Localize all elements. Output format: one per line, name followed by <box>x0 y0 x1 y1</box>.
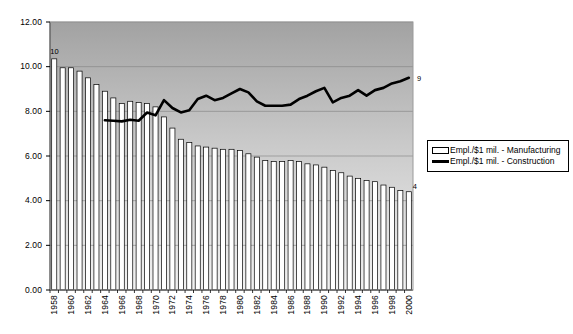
x-tick-label: 1984 <box>269 295 279 315</box>
bar <box>372 182 377 290</box>
x-tick-label: 1996 <box>370 295 380 315</box>
x-tick-label: 1988 <box>302 295 312 315</box>
legend-item-construction: Empl./$1 mil. - Construction <box>432 156 563 167</box>
y-tick-label: 0.00 <box>8 285 42 295</box>
legend-label-manufacturing: Empl./$1 mil. - Manufacturing <box>450 145 561 156</box>
x-tick-label: 1964 <box>100 295 110 315</box>
line-swatch-icon <box>432 160 449 163</box>
x-tick-label: 1982 <box>252 295 262 315</box>
bar <box>178 139 183 290</box>
bar <box>69 68 74 290</box>
bar <box>52 59 57 290</box>
x-tick-label: 1976 <box>201 295 211 315</box>
x-tick-label: 1966 <box>117 295 127 315</box>
bar <box>119 104 124 290</box>
bar <box>406 192 411 290</box>
y-tick-label: 6.00 <box>8 151 42 161</box>
bar <box>94 85 99 290</box>
legend-label-construction: Empl./$1 mil. - Construction <box>450 156 554 167</box>
bar <box>221 149 226 290</box>
bar <box>364 181 369 290</box>
bar <box>237 150 242 290</box>
bar <box>347 176 352 290</box>
bar-data-label: 10 <box>50 47 58 56</box>
bar <box>153 107 158 290</box>
x-tick-label: 1978 <box>218 295 228 315</box>
bar <box>246 154 251 290</box>
x-tick-label: 1962 <box>83 295 93 315</box>
x-tick-label: 1994 <box>353 295 363 315</box>
bar <box>212 148 217 290</box>
bar <box>389 187 394 290</box>
bar <box>60 68 65 290</box>
x-tick-label: 1986 <box>286 295 296 315</box>
x-tick-label: 1980 <box>235 295 245 315</box>
y-axis-ticks <box>46 22 50 290</box>
bar <box>85 78 90 290</box>
x-tick-label: 1974 <box>184 295 194 315</box>
y-tick-label: 8.00 <box>8 106 42 116</box>
x-tick-label: 1970 <box>151 295 161 315</box>
bar-swatch-icon <box>432 147 449 154</box>
bar <box>271 162 276 290</box>
x-tick-label: 1992 <box>336 295 346 315</box>
bar <box>229 149 234 290</box>
x-tick-label: 1968 <box>134 295 144 315</box>
bar <box>263 160 268 290</box>
x-tick-label: 1960 <box>66 295 76 315</box>
bar-data-label: 4 <box>413 182 417 191</box>
bar <box>77 71 82 290</box>
bar <box>356 178 361 290</box>
bar <box>128 101 133 290</box>
y-tick-label: 10.00 <box>8 61 42 71</box>
y-tick-label: 2.00 <box>8 240 42 250</box>
x-tick-label: 1998 <box>387 295 397 315</box>
bar <box>330 171 335 290</box>
bar <box>322 167 327 290</box>
bar <box>313 165 318 290</box>
x-tick-label: 1958 <box>49 295 59 315</box>
bar <box>280 162 285 290</box>
bar <box>170 128 175 290</box>
bar <box>254 157 259 290</box>
bar <box>204 147 209 290</box>
bar <box>305 164 310 290</box>
bar <box>111 98 116 290</box>
chart-legend: Empl./$1 mil. - Manufacturing Empl./$1 m… <box>427 140 569 172</box>
bar <box>161 117 166 290</box>
bar <box>297 162 302 290</box>
bar <box>339 173 344 290</box>
bar <box>288 160 293 290</box>
bar <box>195 146 200 290</box>
legend-item-manufacturing: Empl./$1 mil. - Manufacturing <box>432 145 563 156</box>
y-tick-label: 12.00 <box>8 17 42 27</box>
bar <box>398 191 403 290</box>
bar <box>381 185 386 290</box>
x-tick-label: 1972 <box>167 295 177 315</box>
line-data-label: 9 <box>417 74 421 83</box>
chart-container: 0.002.004.006.008.0010.0012.00 195819601… <box>0 0 573 334</box>
x-tick-label: 2000 <box>404 295 414 315</box>
bar <box>187 143 192 290</box>
y-tick-label: 4.00 <box>8 195 42 205</box>
x-tick-label: 1990 <box>319 295 329 315</box>
bar <box>136 102 141 290</box>
bar <box>145 104 150 290</box>
